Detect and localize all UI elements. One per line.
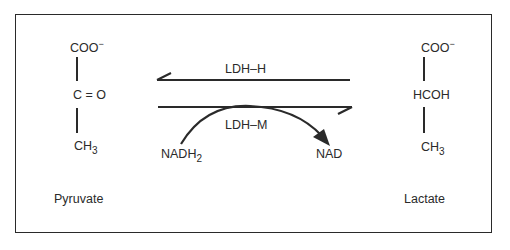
lactate-carboxylate: COO− <box>421 42 455 55</box>
ldh-m-label: LDH–M <box>225 119 267 132</box>
pyruvate-label: Pyruvate <box>54 193 103 206</box>
pyruvate-methyl: CH3 <box>74 140 98 153</box>
lactate-methyl: CH3 <box>421 141 445 154</box>
lactate-label: Lactate <box>404 193 445 206</box>
ldh-h-label: LDH–H <box>225 63 266 76</box>
nadh2-label: NADH2 <box>161 148 202 161</box>
ldh-m-arrow-icon <box>158 107 352 114</box>
lactate-hydroxyl-carbon: HCOH <box>413 89 450 102</box>
pyruvate-carboxylate: COO− <box>70 42 104 55</box>
nad-label: NAD <box>316 148 342 161</box>
pyruvate-carbonyl: C = O <box>73 89 106 102</box>
